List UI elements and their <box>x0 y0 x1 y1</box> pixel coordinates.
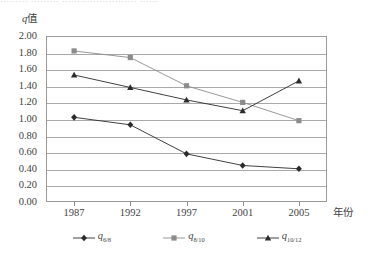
x-axis-tick-label: 2005 <box>269 207 329 219</box>
data-point-marker <box>81 235 87 242</box>
x-axis-tick-label: 2001 <box>213 207 273 219</box>
legend-item-10-12[interactable]: q10/12 <box>256 230 302 245</box>
gridline <box>47 70 326 71</box>
legend-item-6-8[interactable]: q6/8 <box>72 230 111 245</box>
gridline <box>47 170 326 171</box>
gridline <box>47 120 326 121</box>
gridline <box>47 137 326 138</box>
y-axis-tick-label: 2.00 <box>0 30 37 41</box>
legend-label: q10/12 <box>282 230 302 245</box>
legend-item-8-10[interactable]: q8/10 <box>162 230 204 245</box>
y-axis-tick-label: 0.80 <box>0 130 37 141</box>
y-axis-tick-label: 1.20 <box>0 96 37 107</box>
gridline <box>47 54 326 55</box>
y-axis-tick-label: 1.40 <box>0 80 37 91</box>
y-axis-tick-label: 1.80 <box>0 47 37 58</box>
x-axis-tick-mark <box>243 202 244 206</box>
x-axis-caption: 年份 <box>333 207 353 219</box>
x-axis-tick-label: 1997 <box>157 207 217 219</box>
gridline <box>47 186 326 187</box>
legend-marker-diamond-icon <box>72 233 96 243</box>
legend-subscript: 6/8 <box>103 237 111 244</box>
plot-area <box>46 36 327 202</box>
legend-marker-triangle-icon <box>256 233 280 243</box>
data-point-marker <box>172 235 177 240</box>
x-axis-tick-mark <box>187 202 188 206</box>
x-axis-tick-label: 1992 <box>100 207 160 219</box>
y-axis-tick-label: 1.60 <box>0 63 37 74</box>
y-axis-tick-label: 0.60 <box>0 146 37 157</box>
legend-label: q6/8 <box>98 230 111 245</box>
legend-label: q8/10 <box>188 230 204 245</box>
y-axis-caption: q值 <box>22 13 37 25</box>
x-axis-tick-mark <box>130 202 131 206</box>
y-axis-tick-label: 0.00 <box>0 196 37 207</box>
gridline <box>47 103 326 104</box>
legend-marker-square-icon <box>162 233 186 243</box>
y-axis-tick-label: 0.20 <box>0 179 37 190</box>
y-axis-caption-suffix: 值 <box>27 13 37 24</box>
x-axis-tick-mark <box>299 202 300 206</box>
legend-subscript: 10/12 <box>287 237 301 244</box>
x-axis-tick-label: 1987 <box>44 207 104 219</box>
chart-legend: q6/8q8/10q10/12 <box>46 228 327 248</box>
chart-figure: q值 年份 q6/8q8/10q10/12 2.001.801.601.401.… <box>0 0 368 257</box>
gridline <box>47 87 326 88</box>
x-axis-tick-mark <box>74 202 75 206</box>
legend-subscript: 8/10 <box>193 237 204 244</box>
y-axis-tick-label: 0.40 <box>0 163 37 174</box>
gridline <box>47 153 326 154</box>
y-axis-tick-label: 1.00 <box>0 113 37 124</box>
